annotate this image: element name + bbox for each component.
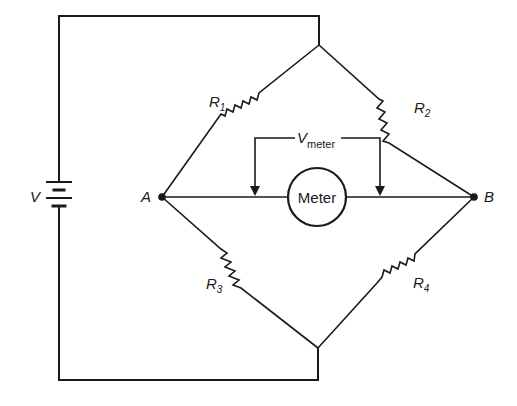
- resistor-r4: [318, 197, 474, 348]
- meter-label: Meter: [298, 189, 336, 206]
- arrow-down-left-icon: [250, 186, 260, 196]
- vmeter-label: Vmeter: [297, 129, 335, 150]
- resistor-r3: [162, 197, 318, 348]
- battery-symbol: [47, 182, 71, 206]
- circuit-diagram: V R1 R2 R3 R4 Meter Vmeter A B: [0, 0, 517, 406]
- r3-label: R3: [206, 275, 223, 295]
- r1-label: R1: [209, 93, 225, 113]
- r4-label: R4: [413, 274, 430, 294]
- wire-bottom-rail: [59, 206, 318, 380]
- vmeter-bracket-right: [341, 138, 380, 188]
- arrow-down-right-icon: [375, 186, 385, 196]
- resistor-r1: [162, 45, 319, 197]
- resistor-r2: [319, 45, 474, 197]
- r2-label: R2: [414, 99, 431, 119]
- node-a-label: A: [140, 188, 151, 205]
- vmeter-bracket-left: [255, 138, 295, 188]
- node-b-dot: [470, 193, 478, 201]
- node-a-dot: [158, 193, 166, 201]
- node-b-label: B: [484, 188, 494, 205]
- wire-top-rail: [59, 16, 319, 182]
- source-voltage-label: V: [30, 188, 42, 205]
